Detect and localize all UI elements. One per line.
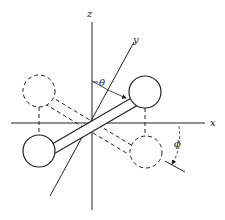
phi-label: ϕ [174,138,181,149]
rotor-diagram: θ ϕ z y x [0,0,225,220]
theta-label: θ [99,77,105,88]
atom-upper-right [129,76,161,108]
phi-reference-line [165,161,185,172]
z-axis-label: z [86,8,93,19]
y-axis-label: y [132,34,139,45]
atom-lower-left [23,135,55,167]
theta-arc [92,81,126,98]
dashed-atom-left [23,75,55,107]
x-axis-label: x [210,117,216,128]
dashed-atom-right [130,136,162,168]
